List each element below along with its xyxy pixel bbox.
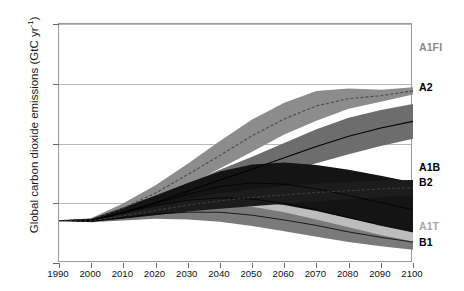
- y-axis-title-suffix: ): [28, 17, 40, 21]
- x-tick-label: 2100: [392, 268, 432, 279]
- plot-area: [58, 23, 412, 262]
- legend-label-a1fi: A1FI: [419, 41, 442, 53]
- y-axis-title-exponent: -1: [26, 20, 35, 27]
- y-tick: [53, 203, 59, 204]
- y-tick: [53, 84, 59, 85]
- legend-label-a2: A2: [419, 81, 433, 93]
- y-tick: [53, 24, 59, 25]
- chart-figure: Global carbon dioxide emissions (GtC yr-…: [0, 0, 464, 291]
- y-axis-title-text: Global carbon dioxide emissions (GtC yr: [28, 27, 40, 233]
- legend-label-a1b: A1B: [419, 161, 440, 173]
- legend-label-b2: B2: [419, 176, 433, 188]
- y-axis-title: Global carbon dioxide emissions (GtC yr-…: [26, 0, 40, 250]
- legend-label-b1: B1: [419, 236, 433, 248]
- y-tick: [53, 144, 59, 145]
- legend-label-a1t: A1T: [419, 220, 439, 232]
- data-bands-svg: [59, 24, 413, 263]
